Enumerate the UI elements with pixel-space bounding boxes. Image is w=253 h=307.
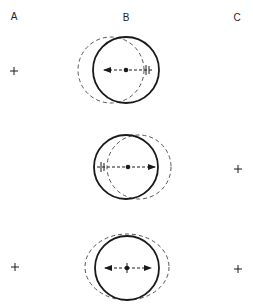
center-dot-bottom: [125, 266, 130, 271]
cross-icon-middle-right: [234, 165, 242, 173]
cross-icon-bottom-left: [11, 263, 19, 271]
diagram-canvas: [0, 0, 253, 307]
panel-top: [78, 37, 159, 103]
tick-mark-top: [146, 65, 149, 75]
panel-middle: [94, 135, 171, 199]
center-dot-top: [124, 68, 129, 73]
cross-icon-bottom-right: [234, 265, 242, 273]
center-dot-middle: [126, 165, 131, 170]
panel-bottom: [85, 234, 169, 300]
cross-icon-top-left: [10, 67, 18, 75]
